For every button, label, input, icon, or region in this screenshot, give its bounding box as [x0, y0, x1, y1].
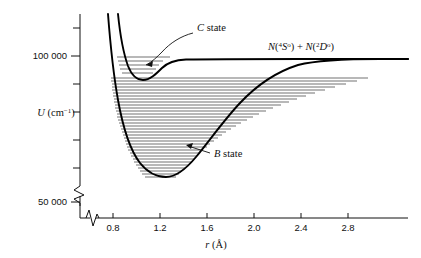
y-axis-label: U (cm−1) [37, 107, 75, 120]
y-axis-break-symbol [74, 186, 84, 203]
b-state-annotation: B state [186, 143, 243, 159]
figure-container: 100 000 50 000 U (cm−1) 0.8 1.2 1.6 2.0 … [0, 0, 421, 258]
c-state-label: C state [197, 22, 226, 33]
y-tick-label-50000: 50 000 [38, 196, 67, 207]
potential-energy-chart: 100 000 50 000 U (cm−1) 0.8 1.2 1.6 2.0 … [0, 0, 421, 258]
x-axis: 0.8 1.2 1.6 2.0 2.4 2.8 r (Å) [86, 210, 408, 251]
x-tick-label-1.6: 1.6 [200, 222, 213, 233]
x-tick-label-1.2: 1.2 [153, 222, 166, 233]
x-axis-label: r (Å) [205, 239, 227, 251]
x-tick-label-0.8: 0.8 [106, 222, 119, 233]
b-state-curve [108, 14, 408, 177]
dissociation-limit-label: N(4So) + N(2Do) [267, 41, 335, 54]
b-state-vibrational-levels [111, 78, 368, 177]
b-state-label: B state [214, 148, 243, 159]
x-tick-label-2.8: 2.8 [341, 222, 354, 233]
x-tick-label-2.0: 2.0 [247, 222, 260, 233]
x-tick-label-2.4: 2.4 [294, 222, 307, 233]
c-state-curve [118, 14, 408, 80]
y-tick-label-100000: 100 000 [33, 50, 67, 61]
y-axis: 100 000 50 000 U (cm−1) [33, 14, 90, 218]
